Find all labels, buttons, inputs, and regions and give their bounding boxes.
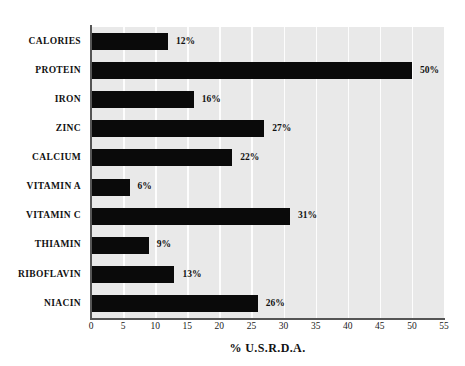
category-label-thiamin: THIAMIN <box>35 240 81 250</box>
category-row: RIBOFLAVIN <box>0 260 86 289</box>
x-tick-label: 20 <box>215 322 225 332</box>
category-label-protein: PROTEIN <box>35 66 81 76</box>
x-tick-label: 5 <box>121 322 126 332</box>
x-tick-label: 25 <box>247 322 257 332</box>
bar-row: 12% <box>91 27 444 56</box>
category-row: THIAMIN <box>0 231 86 260</box>
bar-value-vitamin-a: 6% <box>138 182 152 192</box>
bar-vitamin-a <box>91 179 130 196</box>
category-row: CALORIES <box>0 27 86 56</box>
bar-row: 31% <box>91 202 444 231</box>
bar-row: 22% <box>91 143 444 172</box>
bar-chart: CALORIES PROTEIN IRON ZINC CALCIUM VITAM… <box>0 0 465 366</box>
bar-calcium <box>91 149 232 166</box>
bar-row: 27% <box>91 114 444 143</box>
x-tick-label: 55 <box>439 322 449 332</box>
bar-value-calcium: 22% <box>240 153 259 163</box>
bar-value-vitamin-c: 31% <box>298 211 317 221</box>
x-tick-label: 0 <box>89 322 94 332</box>
bar-row: 50% <box>91 56 444 85</box>
category-row: CALCIUM <box>0 143 86 172</box>
bar-row: 9% <box>91 231 444 260</box>
bar-value-riboflavin: 13% <box>182 270 201 280</box>
x-tick-label: 45 <box>375 322 385 332</box>
x-axis-ticks: 0510152025303540455055 <box>91 322 444 338</box>
x-tick-label: 10 <box>150 322 160 332</box>
bar-calories <box>91 33 168 50</box>
category-row: IRON <box>0 85 86 114</box>
x-tick-label: 15 <box>183 322 193 332</box>
bar-vitamin-c <box>91 208 290 225</box>
bar-value-protein: 50% <box>420 66 439 76</box>
bar-value-niacin: 26% <box>266 299 285 309</box>
category-label-vitamin-c: VITAMIN C <box>26 211 81 221</box>
bar-row: 6% <box>91 172 444 201</box>
category-label-iron: IRON <box>55 95 81 105</box>
category-label-zinc: ZINC <box>56 124 81 134</box>
category-row: ZINC <box>0 114 86 143</box>
x-tick-label: 30 <box>279 322 289 332</box>
x-tick-label: 35 <box>311 322 321 332</box>
bar-niacin <box>91 295 258 312</box>
bar-iron <box>91 91 194 108</box>
category-row: VITAMIN A <box>0 172 86 201</box>
bar-row: 13% <box>91 260 444 289</box>
bar-value-calories: 12% <box>176 37 195 47</box>
category-row: VITAMIN C <box>0 202 86 231</box>
category-label-calcium: CALCIUM <box>32 153 81 163</box>
bar-value-iron: 16% <box>202 95 221 105</box>
bar-thiamin <box>91 237 149 254</box>
y-axis-line <box>90 25 92 319</box>
bar-value-zinc: 27% <box>272 124 291 134</box>
bar-value-thiamin: 9% <box>157 240 171 250</box>
bars-layer: 12% 50% 16% 27% 22% 6% <box>91 27 444 318</box>
bar-row: 16% <box>91 85 444 114</box>
x-axis-line <box>90 318 445 320</box>
x-tick-label: 50 <box>407 322 417 332</box>
plot-area: 12% 50% 16% 27% 22% 6% <box>91 27 444 318</box>
category-row: NIACIN <box>0 289 86 318</box>
category-label-calories: CALORIES <box>29 37 81 47</box>
category-label-niacin: NIACIN <box>44 299 81 309</box>
category-label-vitamin-a: VITAMIN A <box>27 182 81 192</box>
bar-protein <box>91 62 412 79</box>
x-tick-label: 40 <box>343 322 353 332</box>
category-axis: CALORIES PROTEIN IRON ZINC CALCIUM VITAM… <box>0 27 86 318</box>
category-label-riboflavin: RIBOFLAVIN <box>18 270 81 280</box>
bar-riboflavin <box>91 266 174 283</box>
category-row: PROTEIN <box>0 56 86 85</box>
bar-zinc <box>91 120 264 137</box>
bar-row: 26% <box>91 289 444 318</box>
x-axis-title: % U.S.R.D.A. <box>91 342 444 354</box>
